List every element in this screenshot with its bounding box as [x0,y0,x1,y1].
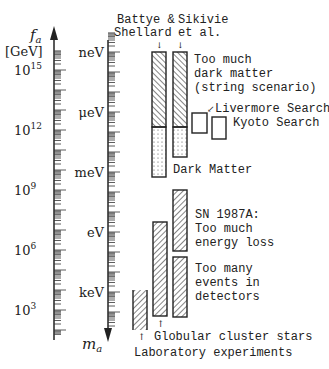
left-axis-tick-label: 1012 [14,121,42,138]
header-battye-line1: Battye & [117,13,175,27]
laboratory-experiments-bar [133,290,147,330]
right-axis-tick-label: μeV [78,105,104,120]
sikivie-excluded-bar [173,52,187,127]
right-axis: neVμeVmeVeVkeV ma [75,33,120,354]
right-axis-tick-label: eV [87,225,105,240]
sn1987a-energy-loss-bar [173,190,187,251]
left-axis-tick-label: 109 [14,181,37,198]
label-livermore: Livermore Search [215,102,329,116]
globular-cluster-stars-bar [153,222,167,316]
label-too-much-dm-1: Too much [194,53,252,67]
arrow-down-icon [104,328,112,342]
arrow-up-icon [50,26,58,40]
arrow-icon: ↙ [207,104,215,114]
label-globular: Globular cluster stars [154,330,312,344]
livermore-search-bar [192,113,207,133]
label-too-much-dm-2: dark matter [194,67,273,81]
label-sn1987a-3: energy loss [195,236,274,250]
left-axis: fa [GeV] 10151012109106103 [5,26,66,340]
right-axis-tick-label: keV [79,285,105,300]
left-axis-tick-label: 103 [14,301,37,318]
sikivie-dark-matter-bar [173,127,187,157]
arrow-down-icon: ↓ [177,41,184,50]
header-sikivie-line1: Sikivie [178,13,228,27]
arrow-up-icon: ↑ [157,319,165,329]
label-events-1: Too many [195,262,253,276]
left-axis-unit: [GeV] [5,44,43,59]
label-sn1987a-1: SN 1987A: [195,208,260,222]
label-kyoto: Kyoto Search [233,116,319,130]
kyoto-search-bar [212,117,226,139]
label-events-3: detectors [195,290,260,304]
label-sn1987a-2: Too much [195,222,253,236]
right-axis-tick-label: neV [79,45,105,60]
header-sikivie-line2: et al. [178,26,221,40]
battye-shellard-excluded-bar [152,52,166,127]
arrow-down-icon: ↓ [156,41,163,50]
left-axis-tick-label: 1015 [14,61,42,78]
axion-bounds-diagram: fa [GeV] 10151012109106103 neVμeVmeVeVke… [0,0,329,369]
arrow-up-icon: ↑ [138,332,146,342]
label-too-much-dm-3: (string scenario) [194,81,316,95]
header-battye-line2: Shellard [114,26,172,40]
label-laboratory: Laboratory experiments [134,346,292,360]
column-headers: Battye & Shellard Sikivie et al. ↓ ↓ [114,13,228,50]
left-axis-tick-label: 106 [14,241,37,258]
left-axis-symbol: fa [29,26,42,45]
battye-shellard-dark-matter-bar [152,127,166,177]
label-events-2: events in [195,276,260,290]
label-dark-matter: Dark Matter [173,163,252,177]
right-axis-tick-label: meV [75,165,105,180]
right-axis-symbol: ma [82,335,102,354]
sn1987a-detector-events-bar [173,257,187,317]
